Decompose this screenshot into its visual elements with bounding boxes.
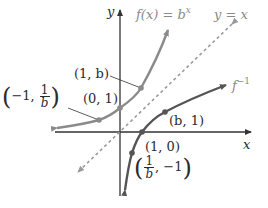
point-0-1 xyxy=(117,105,123,111)
label-0-1: (0, 1) xyxy=(83,92,118,105)
identity-line-label: y = x xyxy=(214,8,248,21)
label-neg1-1overb: (−1, 1b) xyxy=(2,84,60,109)
leader-neg1-1overb xyxy=(68,108,99,120)
point-neg1-1overb xyxy=(96,117,102,123)
x-axis-label: x xyxy=(243,138,250,151)
inverse-curve-label: f−1 xyxy=(232,77,250,92)
leader-1-b xyxy=(110,76,141,88)
point-b-1 xyxy=(162,109,168,115)
label-1overb-neg1: (1b, −1) xyxy=(134,155,192,180)
label-1-0: (1, 0) xyxy=(145,140,180,153)
exp-curve-label: f(x) = bx xyxy=(136,6,191,21)
y-axis-label: y xyxy=(107,5,114,18)
label-b-1: (b, 1) xyxy=(169,114,204,127)
label-1-b: (1, b) xyxy=(74,67,109,80)
point-1-0 xyxy=(139,129,145,135)
inverse-function-diagram: y x f(x) = bx y = x f−1 (1, b) (0, 1) (−… xyxy=(0,0,268,208)
point-1-b xyxy=(138,85,144,91)
